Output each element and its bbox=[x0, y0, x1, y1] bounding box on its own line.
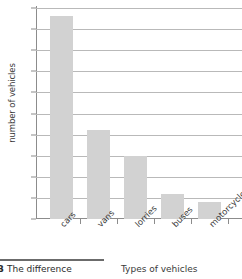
bar-lorries bbox=[124, 156, 147, 219]
bar-slot bbox=[117, 8, 154, 219]
bar-slot bbox=[43, 8, 80, 219]
figure-footer: B The difference Types of vehicles bbox=[0, 258, 242, 279]
x-axis-title: Types of vehicles bbox=[121, 264, 198, 274]
y-axis-title: number of vehicles bbox=[7, 48, 17, 158]
bar-chart-figure: number of vehicles 50454035302520151050 … bbox=[0, 0, 242, 258]
figure-number: B bbox=[0, 264, 4, 274]
bar-vans bbox=[87, 130, 110, 219]
bars-layer bbox=[36, 8, 242, 219]
figure-caption: B The difference bbox=[0, 264, 72, 274]
bar-slot bbox=[191, 8, 228, 219]
footer-divider bbox=[0, 259, 104, 261]
figure-caption-text: The difference bbox=[7, 264, 72, 274]
plot-area: 50454035302520151050 bbox=[36, 8, 242, 219]
bar-slot bbox=[80, 8, 117, 219]
bar-slot bbox=[154, 8, 191, 219]
bar-cars bbox=[50, 16, 73, 219]
x-axis-category-labels: carsvanslorriesbusesmotorcycles bbox=[36, 222, 242, 262]
